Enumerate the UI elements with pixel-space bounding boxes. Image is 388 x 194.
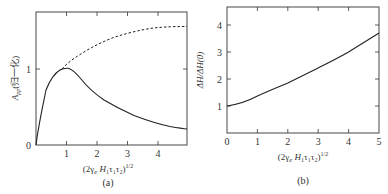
panel-b: 1 2 3 4 0 1 2 3 4 5 ΔH/ΔH(0) (2γe H1τ₁τ₂…	[195, 7, 382, 187]
panel-b-frame	[227, 7, 379, 133]
panel-b-xtick-4: 4	[346, 136, 351, 147]
panel-a-xlabel: (2γe H1τ₁τ₂)1/2	[83, 163, 134, 176]
panel-a-ytick-1: 1	[26, 64, 31, 75]
panel-a-xtick-3: 3	[125, 148, 130, 159]
panel-b-caption: (b)	[297, 175, 309, 187]
panel-b-ytick-4: 4	[217, 20, 222, 31]
panel-a-xtick-4: 4	[156, 148, 161, 159]
figure: 0 1 1 2 3 4 App(归一化) (2γe H1τ₁τ₂)1/2 (a)	[0, 0, 388, 194]
panel-b-xtick-2: 2	[285, 136, 290, 147]
panel-b-xtick-1: 1	[255, 136, 260, 147]
panel-b-xlabel: (2γe H1τ₁τ₂)1/2	[278, 151, 329, 164]
panel-a-ytick-0: 0	[26, 140, 31, 151]
panel-b-ylabel: ΔH/ΔH(0)	[195, 52, 205, 90]
panel-a-ylabel: App(归一化)	[9, 56, 21, 102]
panel-b-xtick-3: 3	[316, 136, 321, 147]
panel-a: 0 1 1 2 3 4 App(归一化) (2γe H1τ₁τ₂)1/2 (a)	[9, 12, 187, 189]
panel-a-dashed-curve	[62, 27, 187, 70]
svg-text:ΔH/ΔH(0): ΔH/ΔH(0)	[195, 52, 205, 90]
svg-text:App(归一化): App(归一化)	[9, 56, 21, 102]
panel-a-xtick-2: 2	[95, 148, 100, 159]
panel-b-ytick-1: 1	[217, 101, 222, 112]
panel-b-xtick-0: 0	[225, 136, 230, 147]
panel-b-ytick-3: 3	[217, 47, 222, 58]
panel-b-ticks	[227, 7, 379, 133]
panel-a-caption: (a)	[102, 177, 113, 189]
panel-b-ytick-2: 2	[217, 74, 222, 85]
panel-b-xtick-5: 5	[377, 136, 382, 147]
panel-b-curve	[227, 33, 379, 106]
panel-a-xtick-1: 1	[64, 148, 69, 159]
panel-a-solid-curve	[36, 68, 187, 145]
